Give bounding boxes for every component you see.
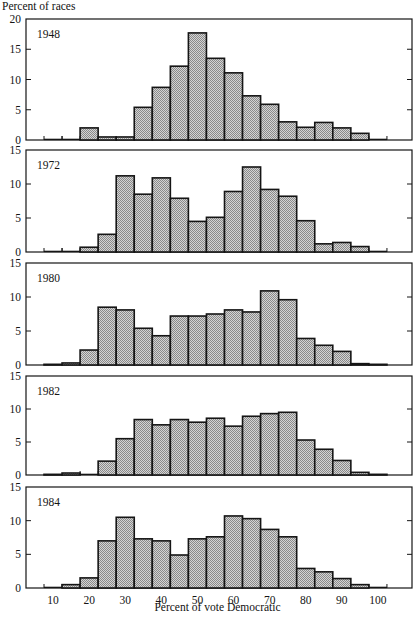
panel-year-label: 1982 [37,385,60,397]
histogram-bar [80,350,98,365]
histogram-bar [351,364,369,365]
histogram-bar [297,127,315,140]
panel-1972: 0510151972 [10,144,413,258]
histogram-bar [62,473,80,475]
y-tick-label: 0 [15,582,21,594]
histogram-bar [80,128,98,140]
histogram-bar [152,178,170,252]
histogram-bar [188,221,206,252]
histogram-bar [351,472,369,475]
histogram-bar [170,420,188,475]
y-tick-label: 10 [10,291,22,303]
histogram-bar [188,539,206,588]
histogram-bar [152,541,170,588]
histogram-bar [206,217,224,252]
histogram-bar [279,537,297,588]
histogram-bar [170,316,188,365]
histogram-bar [152,336,170,365]
y-tick-label: 15 [10,144,22,156]
histogram-bar [351,133,369,140]
histogram-bar [134,194,152,252]
y-tick-label: 10 [10,74,22,86]
y-tick-label: 15 [10,370,22,382]
histogram-bar [44,474,62,475]
panel-year-label: 1948 [37,28,60,40]
histogram-bar [62,585,80,588]
histogram-bar [369,474,387,475]
panel-year-label: 1972 [37,159,60,171]
x-axis-label: Percent of vote Democratic [0,601,417,613]
histogram-bar [279,122,297,140]
histogram-bar [80,578,98,588]
histogram-bar [297,440,315,475]
histogram-bar [225,191,243,252]
histogram-bar [134,539,152,588]
histogram-bar [152,87,170,140]
histogram-bar [170,66,188,140]
y-tick-label: 0 [15,469,21,481]
histogram-bar [333,460,351,475]
histogram-bar [188,316,206,365]
histogram-bar [206,58,224,140]
histogram-bar [279,196,297,252]
histogram-bar [351,247,369,252]
histogram-bar [206,314,224,365]
histogram-bar [333,242,351,252]
panel-1984: 0510151984 [10,481,413,594]
histogram-bar [369,364,387,365]
histogram-bar [297,338,315,365]
y-tick-label: 15 [10,43,22,55]
histogram-bar [206,418,224,475]
histogram-bar [243,312,261,365]
histogram-bar [297,221,315,252]
histogram-bar [225,426,243,475]
histogram-bar [225,516,243,588]
histogram-bar [80,247,98,252]
y-tick-label: 10 [10,178,22,190]
histogram-bar [152,425,170,475]
y-tick-label: 10 [10,403,22,415]
histogram-bar [134,107,152,140]
panel-year-label: 1980 [37,272,60,284]
histogram-bar [98,234,116,252]
histogram-bar [243,96,261,140]
histogram-bar [315,449,333,475]
panel-1948: 051015201948 [10,13,413,146]
y-tick-label: 5 [15,325,21,337]
histogram-bar [98,541,116,588]
histogram-bar [98,461,116,475]
histogram-bar [351,585,369,588]
histogram-bar [225,73,243,140]
histogram-bar [170,198,188,252]
histogram-bar [170,555,188,588]
histogram-bar [243,167,261,252]
histogram-bar [134,328,152,365]
histogram-bar [279,300,297,365]
histogram-bar [116,137,134,140]
histogram-bar [188,33,206,140]
histogram-bar [116,176,134,252]
histogram-bar [261,414,279,475]
histogram-bar [116,310,134,365]
histogram-bar [279,412,297,475]
histogram-bar [98,137,116,140]
y-tick-label: 15 [10,257,22,269]
panel-1982: 0510151982 [10,370,413,481]
y-tick-label: 5 [15,104,21,116]
y-tick-label: 15 [10,481,22,493]
histogram-bar [315,345,333,365]
histogram-panels: 0510152019480510151972051015198005101519… [0,0,417,619]
histogram-bar [261,189,279,252]
histogram-bar [333,351,351,365]
y-tick-label: 5 [15,548,21,560]
histogram-bar [188,422,206,475]
histogram-bar [315,244,333,252]
histogram-bar [315,572,333,588]
histogram-bar [134,420,152,475]
histogram-bar [206,537,224,588]
histogram-figure: Percent of races 05101520194805101519720… [0,0,417,619]
histogram-bar [261,529,279,588]
histogram-bar [44,364,62,365]
panel-1980: 0510151980 [10,257,413,371]
histogram-bar [261,291,279,365]
